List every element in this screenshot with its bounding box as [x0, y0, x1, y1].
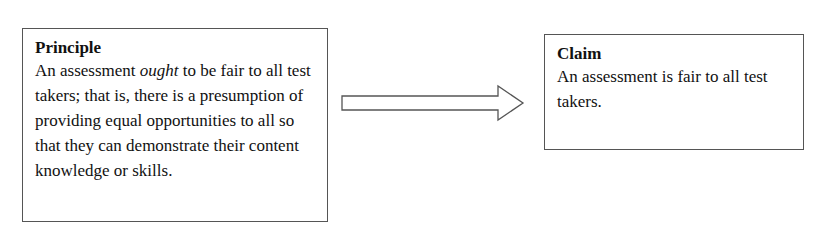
principle-text-emphasis: ought [140, 61, 179, 80]
claim-text: An assessment is fair to all test takers… [557, 64, 791, 114]
right-arrow-icon [340, 84, 526, 122]
principle-title: Principle [35, 38, 315, 58]
claim-title: Claim [557, 44, 791, 64]
principle-text: An assessment ought to be fair to all te… [35, 58, 315, 183]
claim-box: Claim An assessment is fair to all test … [544, 34, 804, 150]
principle-text-start: An assessment [35, 61, 140, 80]
principle-box: Principle An assessment ought to be fair… [22, 28, 328, 222]
